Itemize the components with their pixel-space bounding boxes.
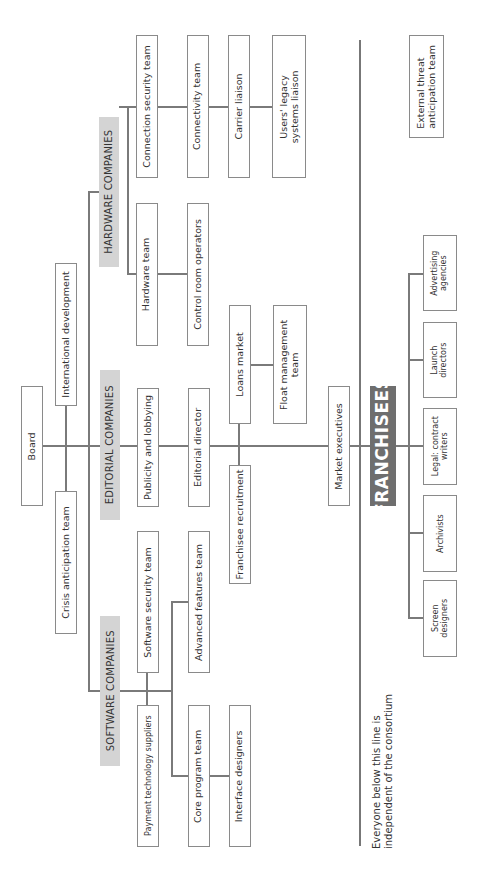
loans-market-label: Loans market (235, 332, 246, 396)
independence-divider-line (359, 40, 361, 846)
archivists-box: Archivists (423, 495, 457, 572)
franchisee-recruitment-box: Franchisee recruitment (229, 465, 251, 584)
advisor-connector (65, 406, 67, 492)
crisis-anticipation-label: Crisis anticipation team (61, 506, 72, 619)
float-management-box: Float managementteam (273, 305, 307, 424)
independence-note: Everyone below this line isindependent o… (371, 695, 393, 847)
board-box: Board (21, 386, 43, 506)
market-executives-label: Market executives (334, 403, 345, 490)
control-room-box: Control room operators (187, 203, 209, 346)
connection-security-label: Connection security team (142, 45, 153, 167)
screen-designers-box: Screendesigners (423, 580, 457, 657)
independence-note-text: Everyone below this line isindependent o… (371, 694, 394, 849)
core-program-box: Core program team (188, 705, 210, 847)
float-management-label: Float managementteam (279, 319, 301, 409)
launch-directors-label: Launchdirectors (431, 342, 449, 377)
international-development-label: International development (61, 271, 72, 397)
editorial-director-label: Editorial director (194, 408, 205, 487)
international-development-box: International development (55, 263, 77, 406)
hardware-team-label: Hardware team (142, 238, 153, 312)
loans-market-box: Loans market (229, 305, 251, 424)
interface-designers-label: Interface designers (235, 730, 246, 822)
hardware-sub-trunk (127, 106, 129, 275)
launch-directors-box: Launchdirectors (423, 322, 457, 398)
payment-technology-label: Payment technology suppliers (143, 716, 152, 837)
board-label: Board (27, 432, 38, 460)
editorial-director-box: Editorial director (188, 388, 210, 507)
users-legacy-box: Users' legacysystems liaison (272, 35, 306, 178)
crisis-anticipation-box: Crisis anticipation team (55, 491, 77, 634)
advertising-agencies-box: Advertisingagencies (423, 235, 457, 311)
advanced-connector (171, 601, 189, 603)
hardware-companies-header: HARDWARE COMPANIES (99, 117, 119, 267)
archivists-connector (408, 532, 423, 534)
carrier-liaison-label: Carrier liaison (234, 73, 245, 139)
control-room-label: Control room operators (193, 219, 204, 330)
carrier-liaison-box: Carrier liaison (228, 35, 250, 178)
advertising-connector (408, 273, 423, 275)
advanced-features-box: Advanced features team (188, 531, 210, 673)
external-threat-box: External threatanticipation team (409, 35, 444, 138)
interface-designers-box: Interface designers (229, 705, 251, 847)
connection-security-box: Connection security team (136, 35, 158, 178)
payment-technology-box: Payment technology suppliers (137, 705, 159, 847)
franchisees-header: FRANCHISEES (370, 386, 396, 506)
connectivity-box: Connectivity team (187, 35, 209, 178)
float-connector (250, 364, 274, 366)
division-trunk-line (88, 191, 90, 692)
software-branch (88, 690, 100, 692)
screen-designers-label: Screendesigners (431, 599, 449, 638)
users-legacy-label: Users' legacysystems liaison (278, 70, 300, 143)
franchisee-trunk (408, 273, 410, 619)
core-program-label: Core program team (194, 729, 205, 822)
franchisee-recruitment-label: Franchisee recruitment (235, 470, 246, 580)
market-executives-box: Market executives (328, 386, 350, 506)
software-sub-trunk (171, 601, 173, 777)
loans-connector (238, 424, 240, 466)
connectivity-label: Connectivity team (193, 63, 204, 150)
editorial-companies-label: EDITORIAL COMPANIES (104, 385, 116, 504)
legal-contract-writers-label: Legal: contractwriters (431, 417, 449, 477)
hardware-companies-label: HARDWARE COMPANIES (103, 130, 115, 254)
hardware-team-box: Hardware team (136, 203, 158, 346)
publicity-lobbying-box: Publicity and lobbying (137, 388, 159, 507)
advertising-agencies-label: Advertisingagencies (431, 250, 449, 295)
software-companies-header: SOFTWARE COMPANIES (100, 616, 120, 766)
software-security-label: Software security team (143, 547, 154, 658)
editorial-companies-header: EDITORIAL COMPANIES (100, 370, 120, 520)
advanced-features-label: Advanced features team (194, 544, 205, 661)
legal-contract-writers-box: Legal: contractwriters (423, 408, 457, 485)
archivists-label: Archivists (435, 514, 444, 553)
software-security-box: Software security team (137, 531, 159, 673)
publicity-lobbying-label: Publicity and lobbying (143, 395, 154, 500)
screen-connector (408, 617, 423, 619)
external-threat-label: External threatanticipation team (416, 45, 438, 129)
franchisees-label: FRANCHISEES (373, 377, 393, 515)
launch-connector (408, 359, 423, 361)
software-companies-label: SOFTWARE COMPANIES (104, 631, 116, 752)
payment-security-connector (146, 672, 148, 706)
